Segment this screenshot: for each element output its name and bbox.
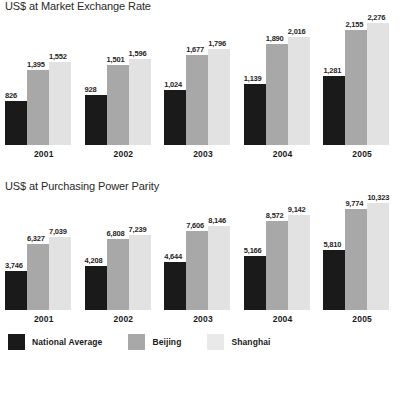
- bar-item[interactable]: 1,139: [244, 12, 266, 145]
- bar[interactable]: [164, 262, 186, 310]
- bar-value-label: 6,327: [27, 234, 45, 243]
- bar-group: 4,2086,8087,239: [85, 192, 163, 310]
- bar-item[interactable]: 6,808: [107, 192, 129, 310]
- bar-item[interactable]: 7,039: [49, 192, 71, 310]
- bar[interactable]: [85, 95, 107, 145]
- bar-group: 1,1391,8902,016: [244, 12, 322, 145]
- x-axis-tick-label: 2003: [170, 310, 236, 328]
- bar-value-label: 1,395: [27, 60, 45, 69]
- bar-item[interactable]: 1,395: [27, 12, 49, 145]
- bar[interactable]: [367, 23, 389, 145]
- x-axis-tick-label: 2002: [90, 145, 156, 163]
- bar-item[interactable]: 9,142: [288, 192, 310, 310]
- bar[interactable]: [129, 235, 151, 310]
- bar-item[interactable]: 1,677: [186, 12, 208, 145]
- legend-swatch-icon: [207, 334, 224, 350]
- bar[interactable]: [266, 44, 288, 145]
- bar[interactable]: [208, 226, 230, 310]
- bar-group: 9281,5011,596: [85, 12, 163, 145]
- bar-value-label: 10,323: [367, 193, 389, 202]
- bar[interactable]: [164, 90, 186, 145]
- bar-item[interactable]: 6,327: [27, 192, 49, 310]
- bar-item[interactable]: 9,774: [345, 192, 367, 310]
- bar[interactable]: [85, 266, 107, 310]
- legend-swatch-icon: [128, 334, 145, 350]
- bar-value-label: 1,796: [208, 39, 226, 48]
- bar-item[interactable]: 1,890: [266, 12, 288, 145]
- bar-item[interactable]: 4,208: [85, 192, 107, 310]
- x-axis-tick-label: 2003: [170, 145, 236, 163]
- x-axis-labels: 20012002200320042005: [5, 145, 403, 163]
- bar-item[interactable]: 5,166: [244, 192, 266, 310]
- x-axis-tick: 2002: [85, 145, 163, 163]
- chart-market-exchange-rate: US$ at Market Exchange Rate 8261,3951,55…: [0, 0, 408, 163]
- bar-group: 3,7466,3277,039: [5, 192, 83, 310]
- bar-item[interactable]: 4,644: [164, 192, 186, 310]
- bar[interactable]: [288, 215, 310, 310]
- bar-item[interactable]: 8,572: [266, 192, 288, 310]
- bar-item[interactable]: 1,552: [49, 12, 71, 145]
- bar-item[interactable]: 2,155: [345, 12, 367, 145]
- bar-item[interactable]: 2,016: [288, 12, 310, 145]
- bar-item[interactable]: 5,810: [323, 192, 345, 310]
- x-axis-tick-label: 2005: [329, 145, 395, 163]
- bar-item[interactable]: 826: [5, 12, 27, 145]
- legend-item[interactable]: National Average: [8, 334, 102, 350]
- bar[interactable]: [345, 209, 367, 310]
- x-axis-tick: 2004: [244, 145, 322, 163]
- bar-value-label: 9,774: [345, 199, 363, 208]
- bar-value-label: 4,208: [85, 256, 103, 265]
- bar[interactable]: [345, 30, 367, 146]
- bar[interactable]: [244, 256, 266, 310]
- legend-item[interactable]: Shanghai: [207, 334, 270, 350]
- bar-value-label: 2,155: [345, 20, 363, 29]
- bar[interactable]: [107, 239, 129, 310]
- bar-item[interactable]: 1,501: [107, 12, 129, 145]
- bar-group: 8261,3951,552: [5, 12, 83, 145]
- x-axis-tick-label: 2001: [11, 145, 77, 163]
- bar[interactable]: [49, 62, 71, 145]
- x-axis-tick: 2001: [5, 145, 83, 163]
- bar-value-label: 7,239: [129, 225, 147, 234]
- bar-item[interactable]: 3,746: [5, 192, 27, 310]
- legend-item[interactable]: Beijing: [128, 334, 181, 350]
- bar[interactable]: [27, 244, 49, 310]
- bar-value-label: 2,276: [367, 13, 385, 22]
- bar-item[interactable]: 1,024: [164, 12, 186, 145]
- bar-group: 5,8109,77410,323: [323, 192, 401, 310]
- bar-group: 5,1668,5729,142: [244, 192, 322, 310]
- x-axis-tick: 2001: [5, 310, 83, 328]
- bar-item[interactable]: 7,239: [129, 192, 151, 310]
- chart-purchasing-power-parity: US$ at Purchasing Power Parity 3,7466,32…: [0, 180, 408, 328]
- bar-value-label: 7,039: [49, 227, 67, 236]
- bar[interactable]: [49, 237, 71, 310]
- chart-legend: National AverageBeijingShanghai: [0, 334, 408, 350]
- bar-item[interactable]: 2,276: [367, 12, 389, 145]
- bar[interactable]: [288, 37, 310, 145]
- bar-item[interactable]: 1,596: [129, 12, 151, 145]
- bar[interactable]: [129, 59, 151, 145]
- bar-item[interactable]: 8,146: [208, 192, 230, 310]
- bar-item[interactable]: 1,796: [208, 12, 230, 145]
- bar[interactable]: [107, 65, 129, 145]
- bar[interactable]: [266, 221, 288, 310]
- bar-value-label: 1,677: [186, 45, 204, 54]
- bar[interactable]: [186, 231, 208, 310]
- bar[interactable]: [323, 250, 345, 310]
- bar-item[interactable]: 10,323: [367, 192, 389, 310]
- bar-value-label: 1,552: [49, 52, 67, 61]
- bar[interactable]: [323, 76, 345, 145]
- bar-item[interactable]: 7,606: [186, 192, 208, 310]
- bar[interactable]: [5, 101, 27, 145]
- bar[interactable]: [27, 70, 49, 145]
- bar-value-label: 1,139: [244, 74, 262, 83]
- bar[interactable]: [5, 271, 27, 310]
- bar-item[interactable]: 928: [85, 12, 107, 145]
- bar-item[interactable]: 1,281: [323, 12, 345, 145]
- bar-value-label: 826: [5, 91, 17, 100]
- bar[interactable]: [208, 49, 230, 145]
- bar[interactable]: [367, 203, 389, 310]
- x-axis-tick-label: 2004: [250, 310, 316, 328]
- bar[interactable]: [186, 55, 208, 145]
- bar[interactable]: [244, 84, 266, 145]
